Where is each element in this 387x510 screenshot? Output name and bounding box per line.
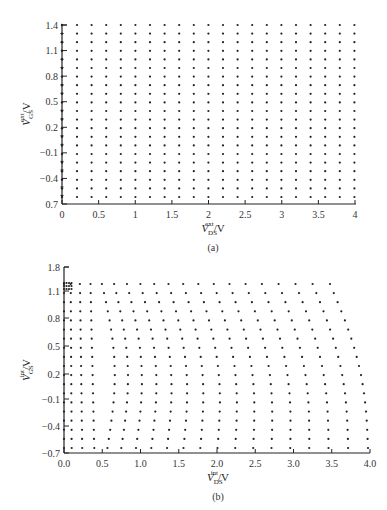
y-tick-label: −0.4	[42, 421, 60, 432]
x-tick-label: 0.5	[96, 458, 109, 469]
x-tick-label: 3.0	[287, 458, 300, 469]
y-tick-label: 0.8	[48, 313, 61, 324]
y-tick-label: 0.8	[46, 71, 59, 82]
x-tick-label: 0.5	[92, 209, 105, 220]
y-tick-label: 0.2	[48, 369, 61, 380]
svg-text:VGSint/V: VGSint/V	[18, 359, 35, 381]
y-tick-label: 1.1	[48, 286, 61, 297]
x-tick-labels-b: 0.00.51.01.52.02.53.03.54.0	[58, 449, 377, 469]
x-tick-label: 1.5	[173, 458, 186, 469]
y-tick-label: 1.4	[46, 20, 59, 31]
caption-a: (a)	[207, 242, 218, 254]
x-tick-label: 2	[206, 209, 211, 220]
x-tick-label: 3.5	[312, 209, 325, 220]
y-tick-labels-b: 1.81.10.80.50.2−0.1−0.4−0.7	[42, 262, 69, 459]
y-tick-label: 1.8	[48, 262, 61, 273]
y-tick-label: −0.1	[40, 147, 58, 158]
data-points-a	[61, 24, 356, 198]
y-tick-label: 0.2	[46, 122, 59, 133]
y-tick-label: −0.1	[42, 394, 60, 405]
x-tick-labels-a: 00.511.522.533.54	[60, 200, 358, 220]
y-tick-labels-a: 1.41.10.80.50.2−0.1−0.40.7	[40, 20, 67, 210]
data-points-b	[63, 282, 369, 449]
y-axis-title-a: VGSext/V	[18, 102, 35, 125]
y-tick-label: −0.7	[42, 448, 60, 459]
y-axis-title-b: VGSint/V	[18, 359, 35, 381]
x-tick-label: 2.0	[211, 458, 224, 469]
x-tick-label: 2.5	[249, 458, 262, 469]
y-tick-label: 0.5	[46, 96, 59, 107]
x-tick-label: 1.0	[134, 458, 147, 469]
y-tick-label: −0.4	[40, 173, 58, 184]
chart-panel-a: 1.41.10.80.50.2−0.1−0.40.7 00.511.522.53…	[18, 20, 358, 255]
x-tick-label: 1	[133, 209, 138, 220]
x-tick-label: 0.0	[58, 458, 71, 469]
y-tick-label: 0.5	[48, 341, 61, 352]
chart-panel-b: 1.81.10.80.50.2−0.1−0.4−0.7 0.00.51.01.5…	[18, 262, 376, 504]
x-tick-label: 2.5	[239, 209, 252, 220]
x-tick-label: 3	[279, 209, 284, 220]
svg-text:VGSext/V: VGSext/V	[18, 102, 35, 125]
x-axis-title-a: VDSext/V	[201, 220, 224, 237]
x-tick-label: 0	[60, 209, 65, 220]
x-axis-title-b: VDSint/V	[207, 469, 229, 486]
x-tick-label: 4	[353, 209, 358, 220]
x-tick-label: 1.5	[166, 209, 179, 220]
y-tick-label: 1.1	[46, 45, 59, 56]
x-tick-label: 3.5	[326, 458, 339, 469]
y-tick-label: 0.7	[46, 199, 59, 210]
figure: 1.41.10.80.50.2−0.1−0.40.7 00.511.522.53…	[0, 0, 387, 510]
x-tick-label: 4.0	[364, 458, 377, 469]
caption-b: (b)	[212, 491, 224, 503]
